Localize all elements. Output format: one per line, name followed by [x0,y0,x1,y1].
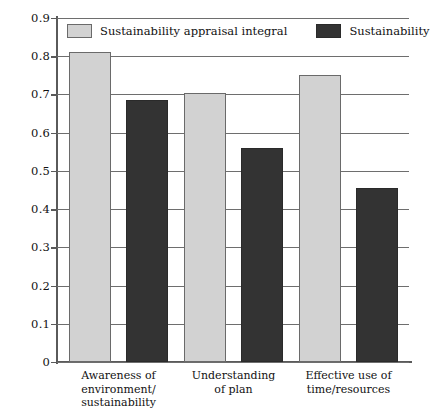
y-axis-tick-label: 0.1 [31,317,50,331]
bar [356,188,398,362]
legend-swatch-icon-light [67,24,92,38]
y-axis-tick-label: 0.7 [31,87,50,101]
y-axis-tick-label-wrap: 0.7 [0,87,50,101]
y-axis-tick-label-wrap: 0.1 [0,317,50,331]
y-axis-tick-label: 0.5 [31,164,50,178]
plot-area [57,18,409,362]
y-axis-tick-label-wrap: 0.5 [0,164,50,178]
y-axis-tick-label: 0 [42,355,50,369]
bar-chart: 0.90.80.70.60.50.40.30.20.10 Sustainabil… [0,0,430,417]
y-axis-tick-label-wrap: 0.8 [0,49,50,63]
y-axis-tick-mark [51,94,57,95]
x-axis-category-label-line: time/resources [294,383,404,397]
chart-legend: Sustainability appraisal integral Sustai… [67,24,430,38]
y-axis-tick-mark [51,247,57,248]
y-axis-tick-mark [51,362,57,363]
bar [126,100,168,362]
y-axis-tick-label-wrap: 0.6 [0,126,50,140]
x-axis-category-label: Understandingof plan [179,369,289,396]
bar [69,52,111,362]
y-axis-tick-label-wrap: 0 [0,355,50,369]
gridline [57,362,409,363]
bar [184,93,226,362]
x-axis-category-label-line: Awareness of [64,369,174,383]
y-axis-tick-mark [51,18,57,19]
y-axis-tick-label: 0.6 [31,126,50,140]
y-axis-tick-mark [51,286,57,287]
x-axis-category-label-line: Effective use of [294,369,404,383]
x-axis-category-label-line: Understanding [179,369,289,383]
bar [241,148,283,362]
bar [299,75,341,362]
x-axis-category-label: Awareness ofenvironment/sustainability [64,369,174,410]
x-axis-category-label-line: of plan [179,383,289,397]
y-axis-tick-label-wrap: 0.3 [0,240,50,254]
legend-label: Sustainability appraisal after plan [349,24,430,38]
legend-entry-sustainability-appraisal-integral: Sustainability appraisal integral [67,24,287,38]
y-axis-tick-mark [51,171,57,172]
y-axis-tick-label: 0.3 [31,240,50,254]
y-axis-tick-label: 0.9 [31,11,50,25]
legend-entry-sustainability-appraisal-after-plan: Sustainability appraisal after plan [316,24,430,38]
legend-swatch-icon-dark [316,24,341,38]
legend-label: Sustainability appraisal integral [100,24,287,38]
y-axis-tick-label: 0.2 [31,279,50,293]
y-axis-tick-mark [51,209,57,210]
y-axis-tick-mark [51,324,57,325]
y-axis-tick-mark [51,133,57,134]
y-axis-tick-label: 0.8 [31,49,50,63]
x-axis-category-label-line: environment/ [64,383,174,397]
x-axis-category-label-line: sustainability [64,396,174,410]
y-axis-tick-label-wrap: 0.2 [0,279,50,293]
y-axis-tick-mark [51,56,57,57]
y-axis-tick-label: 0.4 [31,202,50,216]
y-axis-tick-label-wrap: 0.9 [0,11,50,25]
y-axis-tick-label-wrap: 0.4 [0,202,50,216]
gridline [57,18,409,19]
x-axis-category-label: Effective use oftime/resources [294,369,404,396]
